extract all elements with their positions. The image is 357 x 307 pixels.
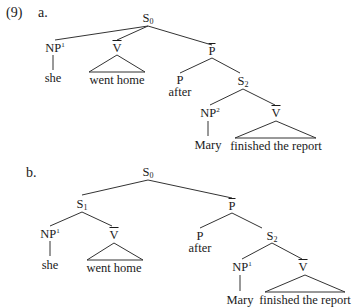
tree-b-np2-word: Mary	[226, 294, 253, 307]
tree-a-np2-node: NP2	[200, 107, 219, 120]
tree-b-label: b.	[26, 166, 37, 180]
tree-a-vbar2-words: finished the report	[230, 140, 322, 153]
tree-b-np-node: NP1	[40, 228, 59, 241]
tree-a-np-word: she	[45, 72, 62, 85]
tree-a-np-node: NP1	[45, 42, 64, 55]
tree-b-pbar-node: P	[229, 200, 236, 213]
tree-a-np2-word: Mary	[194, 139, 221, 152]
tree-a-vbar-node: V	[112, 42, 121, 55]
tree-b-vbar-node: V	[109, 229, 118, 242]
tree-a-label: a.	[38, 6, 48, 20]
tree-b-vbar2-words: finished the report	[259, 294, 351, 307]
tree-b-s2-node: S2	[267, 230, 278, 244]
tree-b-np2-node: NP1	[232, 261, 251, 274]
tree-b-np-word: she	[42, 259, 59, 272]
tree-b-vbar2-node: V	[298, 261, 307, 274]
tree-a-s2-node: S2	[238, 75, 249, 89]
tree-a-p-word: after	[169, 86, 192, 99]
tree-b-vbar-words: went home	[86, 262, 141, 275]
example-number: (9)	[6, 6, 22, 20]
tree-b-s1-node: S1	[77, 198, 88, 212]
tree-b-p-word: after	[189, 242, 212, 255]
tree-b-root-node: S0	[143, 166, 154, 180]
tree-a-vbar2-node: V	[271, 107, 280, 120]
tree-a-root-node: S0	[143, 12, 154, 26]
tree-a-pbar-node: P	[209, 45, 216, 58]
tree-a-vbar-words: went home	[89, 74, 144, 87]
